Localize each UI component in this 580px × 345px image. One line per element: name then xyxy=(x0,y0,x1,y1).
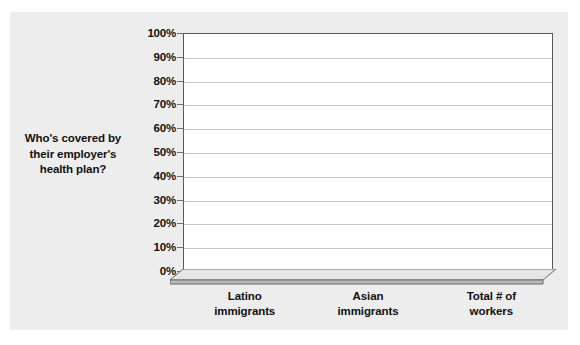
y-axis-tick-label: 30% xyxy=(128,194,176,206)
x-axis-category-labels: LatinoimmigrantsAsianimmigrantsTotal # o… xyxy=(183,289,553,323)
x-axis-label-line: workers xyxy=(429,304,553,319)
x-axis-category-label: Asianimmigrants xyxy=(306,289,430,319)
caption-line-3: health plan? xyxy=(14,162,132,178)
y-axis-tick-label: 90% xyxy=(128,51,176,63)
y-axis-tick-label: 20% xyxy=(128,217,176,229)
bar-series-layer xyxy=(184,34,552,270)
y-axis-tick-label: 10% xyxy=(128,241,176,253)
y-axis-tick-label: 100% xyxy=(128,27,176,39)
chart-3d-base-shape xyxy=(170,269,556,287)
plot-area xyxy=(183,33,553,271)
caption-line-1: Who's covered by xyxy=(14,131,132,147)
y-axis-tick-label: 40% xyxy=(128,170,176,182)
x-axis-label-line: Total # of xyxy=(429,289,553,304)
x-axis-label-line: immigrants xyxy=(183,304,307,319)
x-axis-label-line: Latino xyxy=(183,289,307,304)
x-axis-category-label: Total # ofworkers xyxy=(429,289,553,319)
x-axis-label-line: Asian xyxy=(306,289,430,304)
x-axis-label-line: immigrants xyxy=(306,304,430,319)
y-axis-tick-label: 80% xyxy=(128,75,176,87)
caption-line-2: their employer's xyxy=(14,147,132,163)
chart-question-caption: Who's covered by their employer's health… xyxy=(14,131,132,178)
x-axis-category-label: Latinoimmigrants xyxy=(183,289,307,319)
chart-3d-base xyxy=(170,269,556,287)
y-axis-tick-label: 70% xyxy=(128,98,176,110)
chart-figure: Who's covered by their employer's health… xyxy=(0,0,580,345)
y-axis-tick-label: 50% xyxy=(128,146,176,158)
y-axis-tick-labels: 100%90%80%70%60%50%40%30%20%10%0% xyxy=(128,27,176,273)
y-axis-tick-label: 0% xyxy=(128,265,176,277)
y-axis-tick-label: 60% xyxy=(128,122,176,134)
